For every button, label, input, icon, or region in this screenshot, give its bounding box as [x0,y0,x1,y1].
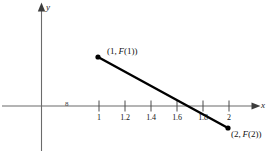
secant-line-series [95,54,230,130]
data-point-1-label-open: (1, [107,46,119,56]
data-point-2 [225,125,230,130]
data-point-1-label-arg: (1)) [124,46,138,56]
data-point-2-label-arg: (2)) [248,129,262,139]
data-point-2-label: (2, F(2)) [231,130,262,139]
x-tick-label-5: 2 [227,114,231,122]
x-axis [2,102,261,109]
data-point-2-label-open: (2, [231,129,243,139]
x-axis-label: x [261,101,265,110]
axis-stray-mark: 8 [65,101,69,108]
x-tick-label-3: 1.6 [172,114,181,122]
data-point-1-label: (1, F(1)) [107,47,138,56]
data-point-1 [95,54,100,59]
x-tick-label-4: 1.8 [198,114,207,122]
y-axis-label: y [46,3,50,12]
y-axis [38,3,45,152]
x-tick-label-2: 1.4 [146,114,155,122]
x-tick-label-0: 1 [97,114,101,122]
x-tick-label-1: 1.2 [120,114,129,122]
graph-figure: y x 8 1 1.2 1.4 1.6 1.8 2 (1, F(1)) (2, … [0,0,272,156]
